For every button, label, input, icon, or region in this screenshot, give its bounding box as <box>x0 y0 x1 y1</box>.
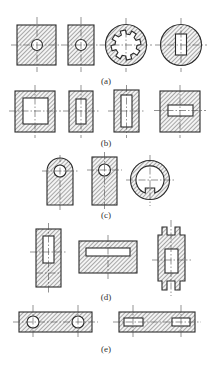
lug-with-round-hole <box>42 155 78 210</box>
group-label-c: (c) <box>101 210 111 220</box>
square-frame-square-hole <box>9 85 61 138</box>
group-c: (c) <box>42 152 176 220</box>
bar-with-two-round-holes <box>13 305 98 339</box>
group-e: (e) <box>13 305 201 354</box>
wide-block-with-long-slot <box>79 235 137 279</box>
group-b: (b) <box>9 85 206 148</box>
forked-block-with-window <box>152 220 191 296</box>
square-with-round-hole <box>11 17 62 72</box>
group-a: (a) <box>11 17 207 86</box>
ring-with-spline-hole <box>100 18 152 72</box>
rectangle-with-narrow-slot <box>63 85 99 138</box>
square-with-horizontal-slot <box>154 85 206 138</box>
group-label-a: (a) <box>101 76 111 86</box>
rectangle-with-long-slot <box>108 85 145 138</box>
ring-with-keyway <box>126 155 176 206</box>
bar-with-two-rectangular-slots <box>113 305 201 339</box>
section-diagram: (a) (b) <box>0 0 212 365</box>
group-label-d: (d) <box>101 292 112 302</box>
group-label-b: (b) <box>101 138 112 148</box>
tall-block-with-slot <box>30 223 67 293</box>
group-label-e: (e) <box>101 344 111 354</box>
group-d: (d) <box>30 220 191 302</box>
disc-with-rectangular-slot <box>155 18 207 72</box>
rectangle-with-round-hole <box>62 17 100 72</box>
rectangle-with-round-hole-near-top <box>87 152 122 211</box>
